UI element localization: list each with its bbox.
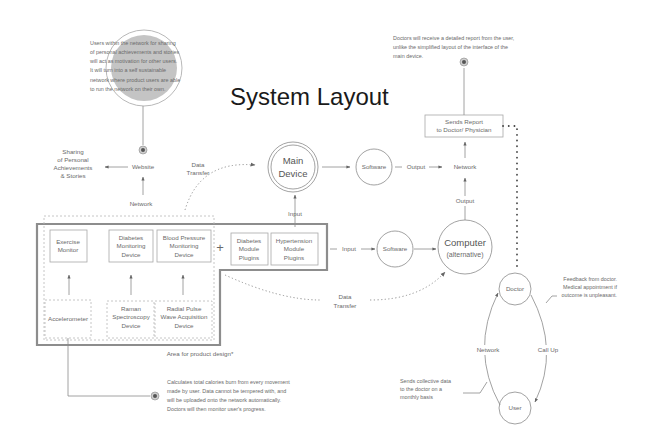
diabetes-plugins-box: Diabetes Module Plugins	[231, 233, 268, 265]
exercise-monitor-box: Exercise Monitor	[50, 230, 87, 262]
svg-text:Doctors will receive a detaile: Doctors will receive a detailed report f…	[393, 35, 515, 41]
svg-text:Diabetes: Diabetes	[119, 234, 143, 241]
svg-text:Plugins: Plugins	[284, 254, 304, 261]
accelerometer-box: Accelerometer	[45, 300, 91, 338]
loop-callup-label: Call Up	[538, 346, 559, 353]
svg-text:Accelerometer: Accelerometer	[48, 315, 88, 322]
svg-text:Doctors will then monitor user: Doctors will then monitor user's progres…	[167, 406, 266, 412]
doctor-report-note: Doctors will receive a detailed report f…	[393, 35, 515, 59]
output-label: Output	[407, 163, 426, 170]
diagram-title: System Layout	[230, 83, 389, 110]
svg-text:made by user. Data cannot be t: made by user. Data cannot be tempered wi…	[167, 388, 286, 394]
computer-node: Computer (alternative)	[438, 220, 492, 274]
svg-text:User: User	[508, 404, 521, 411]
svg-text:Software: Software	[362, 163, 387, 170]
svg-text:Monitoring: Monitoring	[117, 242, 146, 249]
network-node-right: Network	[454, 163, 478, 170]
doctor-node: Doctor	[499, 273, 531, 305]
svg-text:Hypertension: Hypertension	[276, 237, 313, 244]
svg-text:Calculates total calories burn: Calculates total calories burn from ever…	[167, 379, 290, 385]
svg-text:to run the network on their ow: to run the network on their own.	[90, 86, 166, 92]
data-transfer-label-bottom: Transfer	[334, 302, 357, 309]
svg-text:unlike the simplified layout o: unlike the simplified layout of the inte…	[393, 44, 508, 50]
collective-data-note: Sends collective data to the doctor on a…	[400, 378, 451, 400]
svg-text:(alternative): (alternative)	[447, 251, 484, 259]
website-node: Website	[132, 163, 155, 170]
data-transfer-label: Data	[191, 161, 205, 168]
svg-text:to Doctor/ Physician: to Doctor/ Physician	[436, 126, 492, 133]
data-transfer-label: Transfer	[187, 169, 210, 176]
input-label-software: Input	[342, 245, 356, 252]
user-node: User	[499, 392, 531, 424]
svg-text:network where product users ar: network where product users are able	[90, 77, 180, 83]
svg-text:of personal achievements and s: of personal achievements and stories	[90, 49, 180, 55]
system-layout-diagram: System Layout Users within the network f…	[0, 0, 660, 445]
svg-text:Computer: Computer	[444, 237, 486, 248]
svg-text:Software: Software	[383, 245, 408, 252]
svg-text:Module: Module	[284, 245, 305, 252]
software-node-top: Software	[356, 149, 392, 185]
svg-text:It will turn into a self susta: It will turn into a self sustainable	[90, 67, 166, 73]
network-label-left: Network	[130, 200, 154, 207]
blood-pressure-box: Blood Pressure Monitoring Device	[157, 230, 211, 262]
svg-text:to the doctor on a: to the doctor on a	[400, 386, 442, 392]
software-node-mid: Software	[377, 231, 413, 267]
output-label-vertical: Output	[456, 197, 475, 204]
svg-text:Monitor: Monitor	[58, 246, 79, 253]
input-label: Input	[288, 210, 302, 217]
svg-text:Doctor: Doctor	[506, 285, 524, 292]
svg-text:Device: Device	[122, 322, 141, 329]
plus-sign: +	[216, 240, 224, 255]
svg-text:Exercise: Exercise	[56, 238, 80, 245]
svg-text:Area for product design*: Area for product design*	[167, 350, 234, 357]
svg-text:Device: Device	[278, 168, 307, 179]
svg-text:Radial Pulse: Radial Pulse	[167, 305, 202, 312]
svg-text:Device: Device	[175, 322, 194, 329]
radial-pulse-box: Radial Pulse Wave Acquisition Device	[155, 301, 212, 338]
svg-text:Device: Device	[175, 251, 194, 258]
svg-text:Blood Pressure: Blood Pressure	[163, 234, 206, 241]
svg-text:will act as motivation for oth: will act as motivation for other users.	[89, 58, 177, 64]
svg-text:will be uploaded onto the netw: will be uploaded onto the network automa…	[166, 397, 281, 403]
svg-text:& Stories: & Stories	[60, 172, 85, 179]
loop-network-label: Network	[477, 346, 501, 353]
sharing-node: Sharing of Personal Achievements & Stori…	[54, 148, 93, 179]
diabetes-monitoring-box: Diabetes Monitoring Device	[109, 230, 153, 262]
svg-text:Wave Acquisition: Wave Acquisition	[161, 313, 208, 320]
main-device-node: Main Device	[268, 142, 318, 192]
svg-text:Achievements: Achievements	[54, 164, 93, 171]
svg-text:Medical appointment if: Medical appointment if	[563, 284, 617, 290]
svg-text:Module: Module	[239, 245, 260, 252]
svg-text:Raman: Raman	[121, 305, 142, 312]
svg-text:Device: Device	[122, 251, 141, 258]
svg-text:Feedback from doctor.: Feedback from doctor.	[563, 276, 617, 282]
accelerometer-note: Calculates total calories burn from ever…	[166, 379, 290, 412]
svg-text:Diabetes: Diabetes	[237, 237, 261, 244]
users-network-note: Users within the network for sharing of …	[89, 30, 182, 154]
svg-text:main device.: main device.	[393, 53, 423, 59]
svg-text:Sends Report: Sends Report	[445, 118, 483, 125]
svg-text:outcome is unpleasant.: outcome is unpleasant.	[562, 292, 617, 298]
svg-text:Sharing: Sharing	[62, 148, 84, 155]
svg-text:Monitoring: Monitoring	[170, 242, 199, 249]
svg-text:Sends collective data: Sends collective data	[400, 378, 451, 384]
svg-text:of Personal: of Personal	[57, 156, 88, 163]
data-transfer-label-bottom: Data	[338, 293, 352, 300]
svg-text:monthly basis: monthly basis	[400, 394, 433, 400]
svg-text:Main: Main	[283, 155, 304, 166]
svg-text:Spectroscopy: Spectroscopy	[112, 313, 150, 320]
feedback-note: Feedback from doctor. Medical appointmen…	[562, 276, 618, 298]
raman-box: Raman Spectroscopy Device	[107, 301, 154, 338]
svg-text:Plugins: Plugins	[239, 254, 259, 261]
hypertension-plugins-box: Hypertension Module Plugins	[271, 233, 318, 265]
svg-text:Users within the network for s: Users within the network for sharing	[90, 40, 176, 46]
sends-report-box: Sends Report to Doctor/ Physician	[425, 115, 503, 137]
